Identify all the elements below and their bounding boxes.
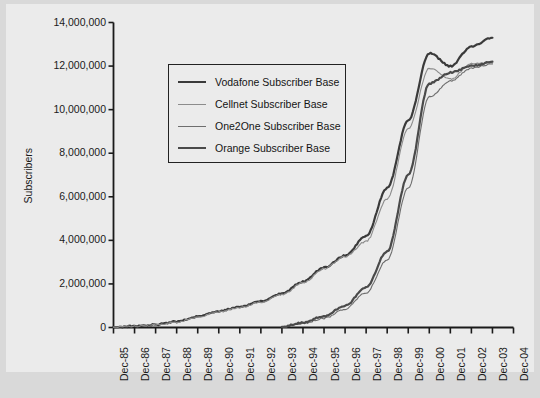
- x-axis-tick-label: Dec-92: [265, 347, 277, 381]
- chart-legend: Vodafone Subscriber BaseCellnet Subscrib…: [168, 64, 346, 163]
- y-axis-tick-label: 0: [20, 321, 106, 333]
- x-axis-tick-label: Dec-01: [455, 347, 467, 381]
- x-axis-tick-label: Dec-89: [202, 347, 214, 381]
- legend-item-label: Orange Subscriber Base: [215, 142, 330, 154]
- y-axis-tick-label: 4,000,000: [20, 233, 106, 245]
- x-axis-tick-label: Dec-99: [413, 347, 425, 381]
- y-axis-tick-label: 10,000,000: [20, 103, 106, 115]
- legend-item: One2One Subscriber Base: [169, 115, 345, 137]
- x-axis-tick-label: Dec-97: [371, 347, 383, 381]
- x-axis-tick-label: Dec-88: [181, 347, 193, 381]
- y-axis-tick-label: 6,000,000: [20, 190, 106, 202]
- legend-swatch-icon: [178, 147, 206, 149]
- x-axis-tick-label: Dec-93: [286, 347, 298, 381]
- x-axis-tick-label: Dec-00: [434, 347, 446, 381]
- x-axis-tick-label: Dec-94: [307, 347, 319, 381]
- legend-item: Cellnet Subscriber Base: [169, 93, 345, 115]
- legend-swatch-icon: [178, 104, 206, 105]
- x-axis-tick-label: Dec-98: [392, 347, 404, 381]
- legend-item-label: One2One Subscriber Base: [215, 120, 341, 132]
- x-axis-tick-label: Dec-95: [329, 347, 341, 381]
- y-axis-tick-label: 2,000,000: [20, 277, 106, 289]
- y-axis-tick-label: 14,000,000: [20, 16, 106, 28]
- x-axis-tick-label: Dec-96: [350, 347, 362, 381]
- x-axis-tick-label: Dec-02: [476, 347, 488, 381]
- x-axis-tick-label: Dec-90: [223, 347, 235, 381]
- y-axis-tick-label: 8,000,000: [20, 146, 106, 158]
- legend-item: Orange Subscriber Base: [169, 137, 345, 159]
- x-axis-tick-label: Dec-85: [118, 347, 130, 381]
- x-axis-tick-label: Dec-91: [244, 347, 256, 381]
- line-chart: Subscribers 02,000,0004,000,0006,000,000…: [0, 0, 540, 398]
- x-axis-tick-label: Dec-03: [497, 347, 509, 381]
- legend-item-label: Vodafone Subscriber Base: [215, 76, 339, 88]
- x-axis-tick-label: Dec-86: [139, 347, 151, 381]
- legend-item: Vodafone Subscriber Base: [169, 71, 345, 93]
- y-axis-tick-label: 12,000,000: [20, 59, 106, 71]
- legend-item-label: Cellnet Subscriber Base: [215, 98, 328, 110]
- x-axis-tick-label: Dec-04: [518, 347, 530, 381]
- x-axis-tick-label: Dec-87: [160, 347, 172, 381]
- legend-swatch-icon: [178, 126, 206, 127]
- legend-swatch-icon: [178, 81, 206, 83]
